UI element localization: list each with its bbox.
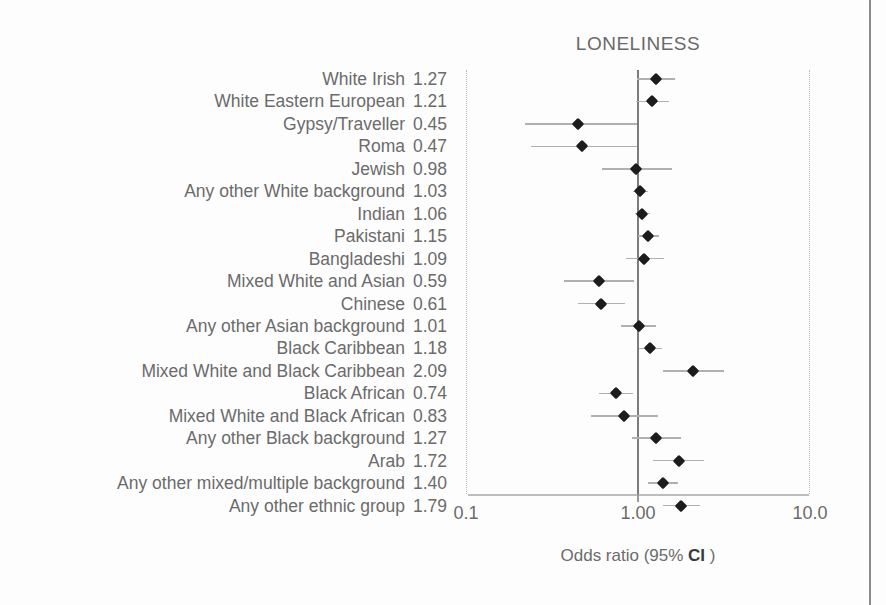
row-odds-ratio-value: 0.83 [413, 405, 461, 427]
point-estimate-marker [644, 342, 657, 355]
panel-left-dotted-border [466, 70, 467, 494]
row-odds-ratio-value: 1.15 [413, 225, 461, 247]
row-odds-ratio-value: 1.72 [413, 450, 461, 472]
row-odds-ratio-value: 1.27 [413, 427, 461, 449]
row-odds-ratio-value: 0.98 [413, 158, 461, 180]
x-caption-suffix: ) [705, 546, 715, 565]
row-odds-ratio-value: 1.03 [413, 180, 461, 202]
row-odds-ratio-value: 0.45 [413, 113, 461, 135]
row-odds-ratio-value: 1.06 [413, 203, 461, 225]
row-odds-ratio-value: 1.01 [413, 315, 461, 337]
row-category-label: Any other Black background [20, 427, 405, 449]
x-tick-label-1: 1.00 [620, 503, 655, 524]
point-estimate-marker [638, 252, 651, 265]
x-tick-label-2: 10.0 [792, 503, 827, 524]
point-estimate-marker [687, 364, 700, 377]
row-category-label: Mixed White and Black African [20, 405, 405, 427]
row-odds-ratio-value: 1.27 [413, 68, 461, 90]
row-category-label: Black African [20, 382, 405, 404]
point-estimate-marker [592, 275, 605, 288]
row-odds-ratio-value: 0.47 [413, 135, 461, 157]
row-category-label: White Eastern European [20, 90, 405, 112]
row-category-label: Jewish [20, 158, 405, 180]
row-odds-ratio-value: 1.18 [413, 337, 461, 359]
row-odds-ratio-value: 0.61 [413, 293, 461, 315]
panel-right-dotted-border [809, 70, 810, 494]
row-odds-ratio-value: 0.59 [413, 270, 461, 292]
point-estimate-marker [642, 230, 655, 243]
point-estimate-marker [609, 387, 622, 400]
point-estimate-marker [618, 409, 631, 422]
row-category-label: White Irish [20, 68, 405, 90]
point-estimate-marker [646, 95, 659, 108]
x-axis-caption: Odds ratio (95% CI ) [466, 546, 810, 566]
point-estimate-marker [595, 297, 608, 310]
row-category-label: Roma [20, 135, 405, 157]
forest-plot-page: LONELINESS White Irish1.27White Eastern … [0, 0, 886, 605]
reference-line-1 [637, 70, 639, 500]
point-estimate-marker [575, 140, 588, 153]
row-category-label: Arab [20, 450, 405, 472]
x-tick-label-0: 0.1 [453, 503, 478, 524]
row-category-label: Gypsy/Traveller [20, 113, 405, 135]
point-estimate-marker [649, 432, 662, 445]
x-caption-prefix: Odds ratio (95% [561, 546, 689, 565]
x-axis-tick-1 [637, 494, 639, 502]
point-estimate-marker [572, 118, 585, 131]
x-caption-ci: CI [688, 546, 705, 565]
row-odds-ratio-value: 0.74 [413, 382, 461, 404]
row-category-label: Indian [20, 203, 405, 225]
point-estimate-marker [632, 320, 645, 333]
row-category-label: Any other Asian background [20, 315, 405, 337]
plot-area [466, 70, 810, 494]
row-category-label: Pakistani [20, 225, 405, 247]
point-estimate-marker [657, 477, 670, 490]
row-odds-ratio-value: 2.09 [413, 360, 461, 382]
row-category-label: Any other ethnic group [20, 495, 405, 517]
forest-row: Any other ethnic group1.79 [0, 495, 886, 517]
row-category-label: Bangladeshi [20, 248, 405, 270]
row-category-label: Black Caribbean [20, 337, 405, 359]
row-odds-ratio-value: 1.40 [413, 472, 461, 494]
row-category-label: Chinese [20, 293, 405, 315]
row-odds-ratio-value: 1.09 [413, 248, 461, 270]
point-estimate-marker [630, 162, 643, 175]
row-category-label: Any other White background [20, 180, 405, 202]
row-category-label: Any other mixed/multiple background [20, 472, 405, 494]
row-odds-ratio-value: 1.21 [413, 90, 461, 112]
point-estimate-marker [649, 73, 662, 86]
point-estimate-marker [672, 454, 685, 467]
row-category-label: Mixed White and Asian [20, 270, 405, 292]
row-category-label: Mixed White and Black Caribbean [20, 360, 405, 382]
point-estimate-marker [634, 185, 647, 198]
